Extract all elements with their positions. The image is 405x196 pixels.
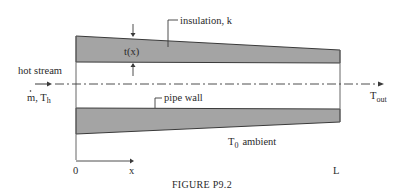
x-axis-label: x bbox=[129, 165, 135, 176]
ambient-temp-subscript: 0 bbox=[234, 141, 238, 150]
pipe-wall-label: pipe wall bbox=[164, 92, 203, 103]
bottom-insulation bbox=[76, 108, 340, 134]
mass-flow-dot bbox=[30, 90, 32, 92]
inlet-arrow-icon bbox=[35, 82, 52, 87]
hot-stream-label: hot stream bbox=[18, 65, 62, 76]
inlet-conditions-label: m, Th bbox=[27, 92, 51, 105]
x-axis bbox=[76, 159, 134, 164]
inlet-temp-subscript: h bbox=[47, 96, 51, 105]
thickness-label: t(x) bbox=[124, 46, 140, 58]
pipe-wall-leader bbox=[155, 98, 162, 108]
outlet-arrow-icon bbox=[378, 82, 384, 87]
mass-flow-symbol: m bbox=[27, 92, 35, 103]
origin-label: 0 bbox=[73, 165, 78, 176]
insulation-label: insulation, k bbox=[180, 15, 233, 26]
ambient-label: T0ambient bbox=[228, 136, 276, 150]
outlet-temp-label: Tout bbox=[370, 90, 387, 104]
length-label: L bbox=[333, 165, 339, 176]
top-insulation bbox=[76, 36, 340, 63]
figure-caption: FIGURE P9.2 bbox=[172, 179, 232, 190]
outlet-temp-subscript: out bbox=[376, 95, 387, 104]
figure-p9-2: insulation, k t(x) hot stream m, Th pipe… bbox=[0, 0, 405, 196]
ambient-word: ambient bbox=[242, 136, 276, 147]
